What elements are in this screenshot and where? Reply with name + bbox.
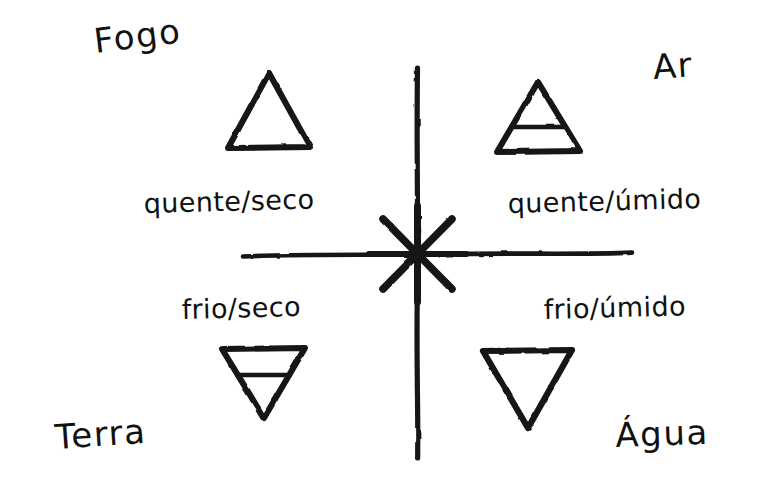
quality-label-quente-seco: quente/seco [143,186,314,217]
element-name-ar: Ar [652,47,695,84]
symbol-terra-triangle-down-barred [222,348,305,418]
diagram-canvas: Fogo Ar Terra Água quente/seco quente/úm… [0,0,780,500]
symbol-ar-triangle-up-barred [497,82,580,152]
element-name-agua: Água [615,415,709,452]
quality-label-quente-umido: quente/úmido [507,185,701,217]
symbol-agua-triangle-down [483,350,572,428]
center-star-icon [369,206,466,302]
element-name-fogo: Fogo [92,14,183,58]
quality-label-frio-umido: frio/úmido [543,292,686,323]
element-name-terra: Terra [54,414,148,454]
quality-label-frio-seco: frio/seco [181,293,301,323]
symbol-fogo-triangle-up [228,73,310,148]
